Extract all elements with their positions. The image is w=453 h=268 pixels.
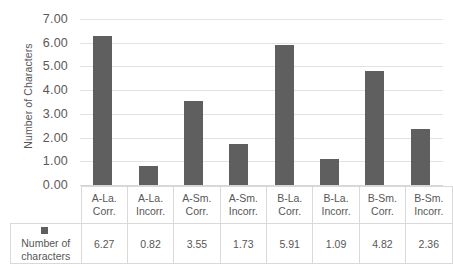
y-axis-tick-label: 5.00 xyxy=(43,59,68,73)
bar-series xyxy=(80,19,443,185)
bar-slot xyxy=(398,19,443,185)
table-value-cell: 4.82 xyxy=(359,224,405,264)
y-axis-tick-label: 3.00 xyxy=(43,107,68,121)
table-value-cell: 2.36 xyxy=(406,224,452,264)
bar[interactable] xyxy=(320,159,339,185)
table-category-line2: Corr. xyxy=(174,205,219,218)
table-row-values: Number of characters 6.270.823.551.735.9… xyxy=(11,224,453,264)
table-category-cell: B-La.Corr. xyxy=(267,187,313,224)
table-category-line2: Incorr. xyxy=(128,205,173,218)
table-category-line1: B-La. xyxy=(267,192,312,205)
table-category-line2: Corr. xyxy=(82,205,127,218)
table-value-cell: 3.55 xyxy=(174,224,220,264)
legend-swatch-icon xyxy=(41,227,48,234)
table-category-cell: B-Sm.Corr. xyxy=(359,187,405,224)
table-category-line1: A-La. xyxy=(82,192,127,205)
table-category-line1: B-Sm. xyxy=(360,192,405,205)
table-row-categories: A-La.Corr.A-La.Incorr.A-Sm.Corr.A-Sm.Inc… xyxy=(11,187,453,224)
bar[interactable] xyxy=(229,144,248,185)
table-corner-cell xyxy=(11,187,82,224)
bar-slot xyxy=(262,19,307,185)
y-axis-tick-labels: 7.006.005.004.003.002.001.000.00 xyxy=(0,19,74,185)
table-category-cell: B-La.Incorr. xyxy=(313,187,359,224)
table-category-cell: A-La.Incorr. xyxy=(127,187,173,224)
table-category-line2: Incorr. xyxy=(221,205,266,218)
bar-slot xyxy=(216,19,261,185)
y-axis-tick-label: 1.00 xyxy=(43,154,68,168)
y-axis-tick-label: 7.00 xyxy=(43,12,68,26)
plot-area xyxy=(80,19,443,185)
legend-label-line2: characters xyxy=(11,250,81,263)
data-table: A-La.Corr.A-La.Incorr.A-Sm.Corr.A-Sm.Inc… xyxy=(10,186,453,264)
table-category-cell: B-Sm.Incorr. xyxy=(406,187,452,224)
table-value-cell: 0.82 xyxy=(127,224,173,264)
table-category-line1: B-La. xyxy=(313,192,358,205)
table-category-cell: A-Sm.Corr. xyxy=(174,187,220,224)
table-category-cell: A-Sm.Incorr. xyxy=(220,187,266,224)
bar-slot xyxy=(125,19,170,185)
bar[interactable] xyxy=(139,166,158,185)
table-category-line1: A-La. xyxy=(128,192,173,205)
legend-label-line1: Number of xyxy=(11,237,81,250)
bar-slot xyxy=(307,19,352,185)
bar-slot xyxy=(80,19,125,185)
y-axis-tick-label: 4.00 xyxy=(43,83,68,97)
table-category-line1: A-Sm. xyxy=(221,192,266,205)
table-category-line1: A-Sm. xyxy=(174,192,219,205)
table-category-line2: Incorr. xyxy=(313,205,358,218)
table-value-cell: 6.27 xyxy=(81,224,127,264)
table-value-cell: 1.09 xyxy=(313,224,359,264)
table-category-line2: Corr. xyxy=(267,205,312,218)
table-category-line1: B-Sm. xyxy=(406,192,451,205)
bar[interactable] xyxy=(275,45,294,185)
table-category-cell: A-La.Corr. xyxy=(81,187,127,224)
table-category-line2: Corr. xyxy=(360,205,405,218)
table-value-cell: 5.91 xyxy=(267,224,313,264)
y-axis-tick-label: 6.00 xyxy=(43,36,68,50)
y-axis-tick-label: 2.00 xyxy=(43,131,68,145)
bar-slot xyxy=(352,19,397,185)
legend-entry: Number of characters xyxy=(11,224,82,264)
bar[interactable] xyxy=(365,71,384,185)
table-category-line2: Incorr. xyxy=(406,205,451,218)
bar[interactable] xyxy=(411,129,430,185)
table-value-cell: 1.73 xyxy=(220,224,266,264)
bar[interactable] xyxy=(93,36,112,185)
bar[interactable] xyxy=(184,101,203,185)
bar-slot xyxy=(171,19,216,185)
